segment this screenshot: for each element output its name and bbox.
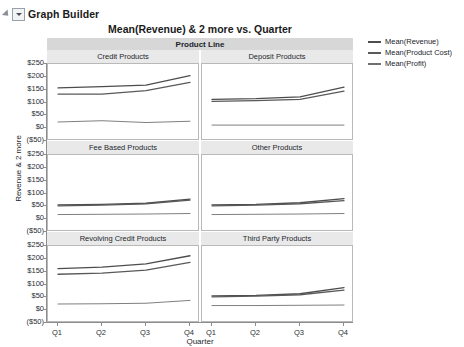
facet-panel-row: Credit ProductsDeposit Products — [47, 50, 353, 140]
facet-panel-header: Third Party Products — [201, 232, 353, 245]
facet-panel-label: Fee Based Products — [89, 143, 157, 152]
y-axis-title: Revenue & 2 more — [14, 109, 23, 229]
facet-panel-header: Revolving Credit Products — [47, 232, 199, 245]
x-tick-label: Q3 — [287, 328, 311, 337]
legend-item[interactable]: Mean(Profit) — [368, 58, 462, 69]
y-tick-mark — [43, 193, 47, 194]
y-tick-mark — [43, 218, 47, 219]
facet-panel-plot[interactable] — [47, 63, 199, 140]
legend-item-label: Mean(Revenue) — [385, 37, 439, 46]
y-tick-mark — [43, 154, 47, 155]
y-tick-mark — [43, 231, 47, 232]
y-tick-mark — [43, 76, 47, 77]
x-tick-label: Q4 — [331, 328, 355, 337]
y-tick-label: $50 — [0, 292, 44, 300]
facet-panel-grid: Credit ProductsDeposit ProductsFee Based… — [47, 50, 353, 322]
y-tick-label: $250 — [0, 241, 44, 249]
y-tick-mark — [43, 258, 47, 259]
facet-panel: Third Party Products — [201, 232, 353, 322]
facet-panel: Other Products — [201, 141, 353, 231]
y-tick-label: $150 — [0, 267, 44, 275]
y-tick-label: $200 — [0, 254, 44, 262]
series-line — [212, 305, 344, 306]
facet-panel: Deposit Products — [201, 50, 353, 140]
facet-panel-header: Credit Products — [47, 50, 199, 63]
legend-line-icon — [368, 41, 381, 43]
y-tick-mark — [43, 127, 47, 128]
facet-panel-row: Revolving Credit ProductsThird Party Pro… — [47, 232, 353, 322]
x-tick-mark — [145, 322, 146, 326]
series-line — [212, 91, 344, 101]
y-tick-mark — [43, 102, 47, 103]
y-tick-mark — [43, 63, 47, 64]
chart-legend: Mean(Revenue)Mean(Product Cost)Mean(Prof… — [368, 36, 462, 69]
y-tick-label: $0 — [0, 305, 44, 313]
x-tick-mark — [101, 322, 102, 326]
facet-panel-plot[interactable] — [47, 245, 199, 322]
facet-panel-plot[interactable] — [201, 154, 353, 231]
facet-panel: Revolving Credit Products — [47, 232, 199, 322]
legend-item[interactable]: Mean(Product Cost) — [368, 47, 462, 58]
facet-panel-header: Other Products — [201, 141, 353, 154]
facet-panel-plot[interactable] — [47, 154, 199, 231]
facet-group-header: Product Line — [47, 38, 353, 50]
legend-line-icon — [368, 63, 381, 65]
x-tick-label: Q3 — [133, 328, 157, 337]
facet-panel-label: Revolving Credit Products — [80, 234, 167, 243]
x-tick-label: Q2 — [243, 328, 267, 337]
x-tick-mark — [211, 322, 212, 326]
series-line — [58, 82, 190, 94]
x-tick-mark — [57, 322, 58, 326]
y-tick-mark — [43, 296, 47, 297]
legend-item-label: Mean(Profit) — [385, 59, 426, 68]
facet-panel: Fee Based Products — [47, 141, 199, 231]
y-tick-mark — [43, 180, 47, 181]
facet-panel-label: Deposit Products — [248, 52, 305, 61]
legend-line-icon — [368, 52, 381, 54]
x-tick-label: Q1 — [45, 328, 69, 337]
y-tick-label: ($50) — [0, 318, 44, 326]
y-tick-mark — [43, 309, 47, 310]
facet-panel-label: Other Products — [252, 143, 302, 152]
y-tick-mark — [43, 140, 47, 141]
legend-item[interactable]: Mean(Revenue) — [368, 36, 462, 47]
series-line — [58, 300, 190, 304]
x-tick-label: Q4 — [177, 328, 201, 337]
facet-panel-label: Credit Products — [97, 52, 149, 61]
y-tick-mark — [43, 89, 47, 90]
x-tick-mark — [255, 322, 256, 326]
y-tick-mark — [43, 205, 47, 206]
series-line — [58, 256, 190, 269]
series-line — [212, 87, 344, 99]
y-tick-mark — [43, 284, 47, 285]
facet-panel-row: Fee Based ProductsOther Products — [47, 141, 353, 231]
y-tick-label: $100 — [0, 280, 44, 288]
y-tick-label: $150 — [0, 85, 44, 93]
x-tick-label: Q2 — [89, 328, 113, 337]
facet-group-label: Product Line — [176, 40, 225, 49]
x-tick-label: Q1 — [199, 328, 223, 337]
y-tick-label: $100 — [0, 98, 44, 106]
graph-builder-chart: Mean(Revenue) & 2 more vs. Quarter Produ… — [0, 14, 464, 347]
y-tick-label: $250 — [0, 59, 44, 67]
facet-panel-label: Third Party Products — [243, 234, 311, 243]
x-tick-mark — [343, 322, 344, 326]
y-tick-label: $200 — [0, 72, 44, 80]
x-axis-title: Quarter — [47, 337, 353, 346]
facet-panel-plot[interactable] — [201, 63, 353, 140]
facet-panel-header: Fee Based Products — [47, 141, 199, 154]
y-tick-mark — [43, 114, 47, 115]
x-tick-mark — [189, 322, 190, 326]
legend-item-label: Mean(Product Cost) — [385, 48, 452, 57]
facet-panel-header: Deposit Products — [201, 50, 353, 63]
chart-title: Mean(Revenue) & 2 more vs. Quarter — [47, 23, 353, 35]
y-tick-mark — [43, 167, 47, 168]
series-line — [58, 121, 190, 123]
series-line — [212, 214, 344, 215]
x-axis-line — [47, 322, 353, 323]
facet-panel: Credit Products — [47, 50, 199, 140]
x-tick-mark — [299, 322, 300, 326]
facet-panel-plot[interactable] — [201, 245, 353, 322]
series-line — [58, 214, 190, 215]
y-tick-mark — [43, 271, 47, 272]
